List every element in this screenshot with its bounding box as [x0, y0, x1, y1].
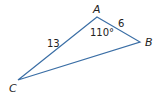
side-label-ac: 13 [47, 38, 60, 49]
side-label-ab: 6 [118, 18, 124, 29]
triangle-diagram: A B C 13 6 110° [0, 0, 160, 94]
vertex-label-b: B [145, 36, 153, 49]
angle-label-a: 110° [90, 27, 114, 38]
vertex-label-a: A [92, 3, 101, 16]
vertex-label-c: C [9, 82, 17, 94]
